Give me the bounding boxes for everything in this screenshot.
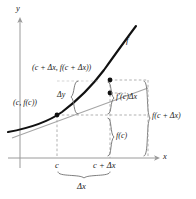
curve-label-f: f [126,36,129,45]
x-axis-label: x [163,152,167,161]
label-delta-y: Δy [57,91,65,99]
y-axis-label: y [16,4,20,13]
x-axis [8,155,160,160]
point-c-marker [55,113,60,118]
label-f-of-c: f(c) [116,132,127,140]
label-point-c-plus-delta-x: (c + Δx, f(c + Δx)) [32,64,91,72]
brace-f-prime-delta-x-shape [108,82,114,114]
tangent-line-approximation-figure: y x f (c + Δx, f(c + Δx)) (c, f(c)) Δy f… [0,0,196,199]
tick-label-c: c [55,161,59,170]
brace-f-of-c-shape [108,118,114,156]
brace-delta-y-shape [71,81,78,114]
brace-f-of-c-plus-delta-x-shape [144,81,150,156]
label-delta-x: Δx [77,182,86,191]
y-axis [17,17,22,168]
label-f-of-c-plus-delta-x: f(c + Δx) [152,112,181,120]
label-f-prime-c-delta-x: f′(c)Δx [116,93,137,101]
label-point-c: (c, f(c)) [13,99,37,107]
tick-label-c-plus-delta-x: c + Δx [93,161,116,170]
brace-delta-x-shape [58,172,110,178]
